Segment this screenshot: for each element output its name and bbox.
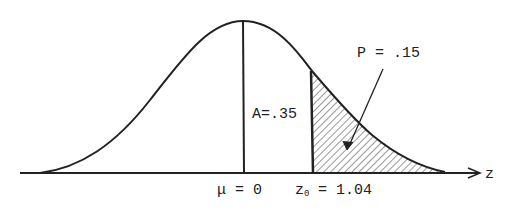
mean-line (243, 21, 244, 173)
normal-curve-diagram: A=.35 P = .15 z μ = 0 z 0 = 1.04 (0, 0, 510, 210)
z0-label-value: = 1.04 (309, 182, 372, 199)
shaded-tail-region (312, 71, 445, 173)
mean-label: μ = 0 (217, 182, 262, 199)
tail-probability-label: P = .15 (357, 45, 420, 62)
axis-label: z (485, 166, 494, 183)
area-label: A=.35 (252, 106, 297, 123)
z0-label-prefix: z (295, 182, 304, 199)
